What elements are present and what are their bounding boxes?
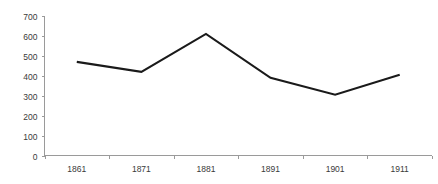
y-tick-label: 700 <box>23 12 37 22</box>
x-tick-label: 1891 <box>261 164 280 174</box>
chart-canvas: 0100200300400500600700 18611871188118911… <box>0 0 438 184</box>
x-tick-label: 1861 <box>67 164 86 174</box>
y-tick-label: 400 <box>23 72 37 82</box>
chart-background <box>0 0 438 184</box>
y-tick-label: 200 <box>23 112 37 122</box>
y-tick-label: 500 <box>23 52 37 62</box>
y-tick-label: 100 <box>23 132 37 142</box>
x-tick-label: 1871 <box>132 164 151 174</box>
y-tick-label: 300 <box>23 92 37 102</box>
y-tick-label: 600 <box>23 32 37 42</box>
x-tick-label: 1901 <box>326 164 345 174</box>
x-tick-label: 1881 <box>196 164 215 174</box>
line-chart: 0100200300400500600700 18611871188118911… <box>0 0 438 184</box>
y-tick-label: 0 <box>33 152 38 162</box>
x-tick-label: 1911 <box>391 164 410 174</box>
